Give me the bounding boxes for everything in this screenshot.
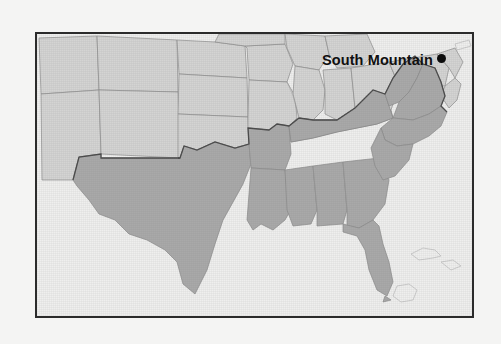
state-utah [39, 36, 99, 94]
state-alabama [313, 162, 347, 226]
state-iowa [245, 44, 293, 82]
state-illinois [293, 66, 325, 120]
state-missouri [248, 80, 297, 130]
state-mississippi [285, 166, 317, 226]
state-nebraska [177, 40, 247, 78]
map-figure: South Mountain [0, 0, 501, 344]
state-kansas [178, 74, 248, 117]
state-colorado [97, 36, 178, 92]
map-frame: South Mountain [35, 32, 474, 318]
state-new-mexico [99, 90, 180, 158]
us-map-svg [37, 34, 472, 316]
state-arkansas [248, 124, 291, 170]
